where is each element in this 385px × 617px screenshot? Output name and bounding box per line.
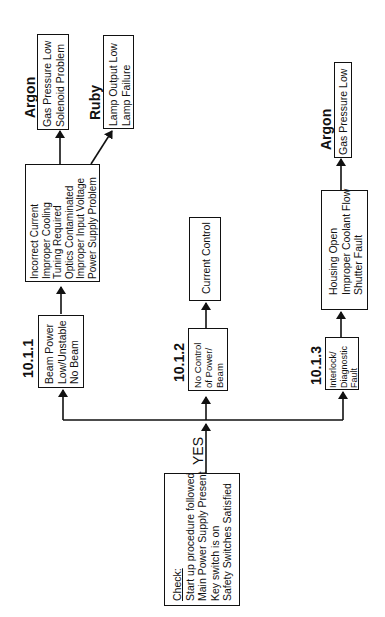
symptom-line: No Beam — [68, 320, 81, 384]
check-line: Key switch is on — [209, 471, 222, 601]
cause-line: Housing Open — [327, 189, 340, 295]
start-check-box: Check: Start up procedure followed Main … — [164, 473, 240, 606]
sub-label-argon-2: Argon — [318, 109, 334, 150]
sub-item: Lamp Failure — [120, 43, 133, 126]
check-line: Start up procedure followed — [184, 471, 197, 601]
branch-id-10-1-2: 10.1.2 — [171, 343, 187, 382]
yes-label: YES — [190, 437, 206, 465]
symptom-line: Beam — [214, 343, 225, 388]
symptom-box-10-1-3: Interlock/ Diagnostic Fault — [325, 337, 359, 390]
symptom-line: Low/Unstable — [56, 320, 69, 384]
sub-item: Gas Pressure Low — [41, 41, 54, 127]
sub-item: Solenoid Problem — [54, 41, 67, 127]
cause-line: Improper Cooling — [41, 177, 53, 279]
ruby-box: Lamp Output Low Lamp Failure — [103, 35, 134, 129]
check-line: Safety Switches Satisfied — [221, 471, 234, 601]
cause-line: Optics Contaminated — [64, 177, 76, 279]
symptom-line: of Power/ — [203, 343, 214, 388]
symptom-line: Fault — [349, 346, 360, 388]
sub-label-argon: Argon — [22, 77, 38, 118]
symptom-box-10-1-1: Beam Power Low/Unstable No Beam — [38, 315, 84, 388]
causes-box-10-1-1: Incorrect Current Improper Cooling Tunin… — [25, 164, 100, 282]
branch-id-10-1-3: 10.1.3 — [308, 346, 324, 385]
cause-line: Improper Input Voltage — [75, 177, 87, 279]
symptom-box-10-1-2: No Control of Power/ Beam — [188, 328, 228, 391]
cause-line: Improper Coolant Flow — [340, 189, 353, 295]
symptom-line: Beam Power — [43, 320, 56, 384]
symptom-line: Diagnostic — [339, 346, 350, 388]
cause-line: Current Control — [200, 222, 213, 294]
sub-item: Gas Pressure Low — [337, 69, 350, 155]
cause-line: Incorrect Current — [29, 177, 41, 279]
check-title: Check: — [171, 471, 184, 601]
sub-label-ruby: Ruby — [87, 85, 103, 120]
causes-box-10-1-2: Current Control — [189, 217, 221, 301]
cause-line: Shutter Fault — [352, 189, 365, 295]
argon-box-2: Gas Pressure Low — [334, 62, 352, 158]
causes-box-10-1-3: Housing Open Improper Coolant Flow Shutt… — [321, 190, 368, 310]
check-line: Main Power Supply Present — [196, 471, 209, 601]
symptom-line: No Control — [192, 343, 203, 388]
sub-item: Lamp Output Low — [107, 43, 120, 126]
argon-box: Gas Pressure Low Solenoid Problem — [37, 34, 69, 130]
branch-id-10-1-1: 10.1.1 — [20, 339, 36, 378]
cause-line: Tuning Required — [52, 177, 64, 279]
cause-line: Power Supply Problem — [87, 177, 99, 279]
symptom-line: Interlock/ — [328, 346, 339, 388]
